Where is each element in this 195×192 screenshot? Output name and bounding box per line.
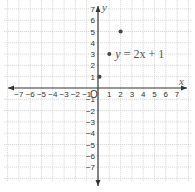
y-tick-label: 3: [91, 50, 96, 59]
x-tick-label: −3: [60, 90, 70, 99]
x-tick-label: 5: [152, 90, 157, 99]
x-axis-arrow-left: [8, 86, 14, 91]
x-axis-label: x: [178, 75, 184, 87]
y-axis-arrow-down: [96, 180, 101, 186]
y-tick-label: 5: [91, 28, 96, 37]
y-tick-label: −2: [86, 107, 96, 116]
y-tick-label: −6: [86, 152, 96, 161]
equation-annotation: y = 2x + 1: [114, 47, 164, 61]
equation-equals: =: [121, 47, 134, 61]
y-tick-label: 2: [91, 61, 96, 70]
y-tick-label: −5: [86, 141, 96, 150]
x-tick-label: 7: [175, 90, 180, 99]
x-tick-label: 1: [107, 90, 112, 99]
x-tick-label: 6: [164, 90, 169, 99]
x-tick-label: −6: [26, 90, 36, 99]
y-tick-label: −7: [86, 163, 96, 172]
x-tick-label: 2: [118, 90, 123, 99]
y-tick-label: 1: [91, 73, 96, 82]
x-tick-label: −2: [71, 90, 81, 99]
y-tick-label: 6: [91, 16, 96, 25]
x-tick-label: 3: [130, 90, 135, 99]
y-tick-label: 7: [91, 5, 96, 14]
x-tick-label: 4: [141, 90, 146, 99]
data-point: [98, 75, 102, 79]
x-tick-label: −7: [14, 90, 24, 99]
y-axis-label: y: [101, 1, 107, 13]
coordinate-plane: −7−6−5−4−3−2−112345677654321−1−2−3−4−5−6…: [0, 0, 195, 192]
data-point: [119, 30, 123, 34]
y-tick-label: −4: [86, 129, 96, 138]
x-tick-label: −5: [37, 90, 47, 99]
data-point: [107, 52, 111, 56]
y-tick-label: 4: [91, 39, 96, 48]
x-tick-label: −4: [48, 90, 58, 99]
equation-expr: 2x + 1: [133, 47, 164, 61]
origin-label: O: [90, 89, 98, 100]
y-tick-label: −3: [86, 118, 96, 127]
